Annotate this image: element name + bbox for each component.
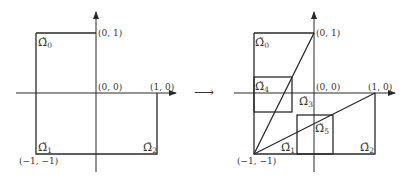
point-label-0-1: (0, 1) — [316, 28, 340, 38]
point-label-0-0: (0, 0) — [98, 82, 122, 92]
region-label-omega4: Ω̃4 — [255, 80, 269, 94]
domain-diagram: (0, 1) (0, 0) (1, 0) (−1, −1) Ω̃0 Ω̃1 Ω̃… — [0, 0, 409, 182]
region-label-omega5: Ω̃5 — [315, 122, 329, 136]
point-label-m1-m1: (−1, −1) — [19, 156, 58, 166]
region-label-omega2: Ω̃2 — [143, 141, 157, 155]
right-panel: (0, 1) (0, 0) (1, 0) (−1, −1) Ω̃0 Ω̃4 Ω̃… — [234, 12, 395, 172]
region-label-omega1: Ω̃1 — [38, 141, 52, 155]
left-panel: (0, 1) (0, 0) (1, 0) (−1, −1) Ω̃0 Ω̃1 Ω̃… — [16, 12, 176, 172]
point-label-0-0: (0, 0) — [316, 82, 340, 92]
region-label-omega0: Ω̃0 — [38, 36, 52, 50]
point-label-1-0: (1, 0) — [368, 82, 392, 92]
transition-arrow-icon: ⟶ — [194, 84, 214, 100]
point-label-1-0: (1, 0) — [150, 82, 174, 92]
region-label-omega3: Ω̃3 — [299, 95, 313, 109]
region-label-omega1: Ω̃1 — [281, 141, 295, 155]
point-label-m1-m1: (−1, −1) — [237, 156, 276, 166]
region-label-omega2: Ω̃2 — [360, 141, 374, 155]
region-label-omega0: Ω̃0 — [255, 36, 269, 50]
point-label-0-1: (0, 1) — [98, 28, 122, 38]
